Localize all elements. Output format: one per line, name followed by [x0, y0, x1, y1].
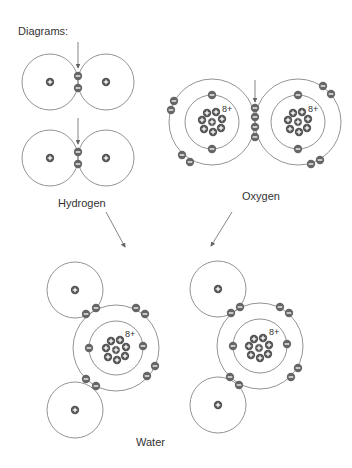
diagram-canvas: 8+ 8+ 8+	[0, 0, 352, 468]
water-molecule-left: 8+	[47, 262, 159, 438]
arrow-oxygen-to-water	[211, 212, 232, 246]
hydrogen-molecule-top	[22, 42, 134, 110]
charge-label: 8+	[222, 104, 232, 114]
charge-label: 8+	[269, 327, 279, 337]
hydrogen-molecule-bottom	[22, 118, 134, 186]
water-molecule-right: 8+	[190, 261, 303, 433]
oxygen-molecule: 8+ 8+	[167, 79, 341, 168]
arrow-hydrogen-to-water	[106, 212, 125, 247]
charge-label: 8+	[308, 104, 318, 114]
charge-label: 8+	[125, 329, 135, 339]
